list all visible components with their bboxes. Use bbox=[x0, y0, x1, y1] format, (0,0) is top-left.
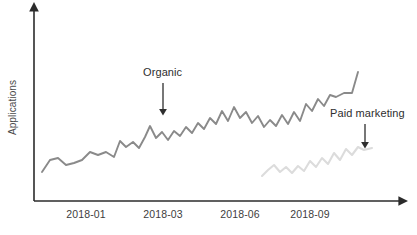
chart-canvas: Applications 2018-012018-032018-062018-0… bbox=[0, 0, 417, 235]
annotation-label-paid-marketing: Paid marketing bbox=[330, 107, 405, 119]
x-tick-label-2018-09: 2018-09 bbox=[290, 208, 330, 220]
data-series-group bbox=[42, 72, 372, 176]
series-line-paid-marketing bbox=[262, 147, 372, 176]
x-tick-label-2018-03: 2018-03 bbox=[143, 208, 183, 220]
series-line-organic bbox=[42, 72, 358, 172]
x-tick-label-2018-01: 2018-01 bbox=[66, 208, 106, 220]
annotation-label-organic: Organic bbox=[143, 66, 183, 78]
x-axis-tick-labels: 2018-012018-032018-062018-09 bbox=[66, 208, 330, 220]
x-tick-label-2018-06: 2018-06 bbox=[220, 208, 260, 220]
line-chart-figure: Applications 2018-012018-032018-062018-0… bbox=[0, 0, 417, 235]
y-axis-label: Applications bbox=[7, 80, 18, 135]
